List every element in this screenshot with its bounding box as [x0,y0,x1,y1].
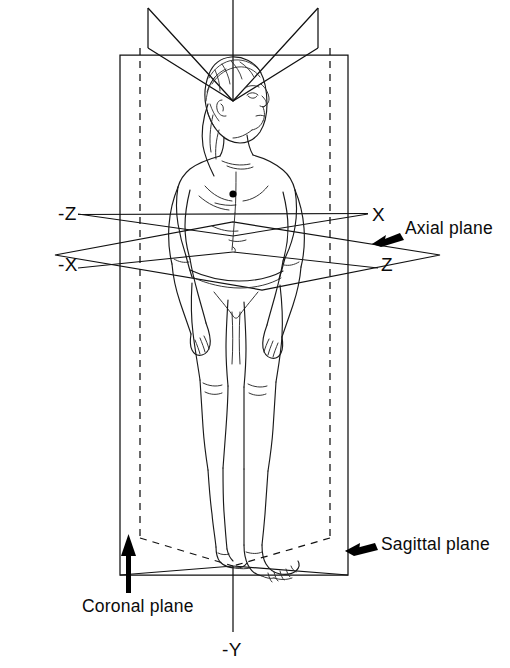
sagittal-plane-shape [120,8,348,575]
human-figure-drawing [169,57,305,582]
anatomical-planes-figure: .ln{fill:none;stroke:#111111;stroke-widt… [0,0,510,668]
sagittal-plane-arrow [345,543,378,556]
axial-plane-arrow [372,233,404,247]
coronal-plane-shape [120,55,348,575]
coronal-plane-arrow [121,534,136,593]
axis-label-negative-x: -X [58,255,78,274]
sagittal-plane-label: Sagittal plane [381,536,490,554]
axis-negz-to-x [78,213,368,214]
axis-label-x: X [372,205,385,224]
axis-label-negative-y: -Y [222,640,242,659]
axis-label-negative-z: -Z [58,204,77,223]
axis-label-z: Z [381,255,393,274]
coronal-plane-label: Coronal plane [82,598,194,616]
diagram-canvas: .ln{fill:none;stroke:#111111;stroke-widt… [0,0,510,668]
nipple-marking [229,190,236,197]
axial-plane-label: Axial plane [405,220,493,238]
